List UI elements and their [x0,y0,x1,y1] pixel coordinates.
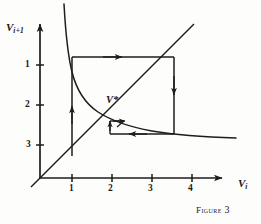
x-tick-label-3: 3 [148,184,153,194]
cobweb-plot [0,0,261,224]
x-axis-title: Vi [238,178,248,190]
x-axis-title-subscript: i [245,182,247,191]
y-tick-label-1: 3 [26,140,31,150]
figure-caption: Figure 3 [196,205,230,215]
y-tick-label-2: 2 [25,100,30,110]
figure-caption-number: 3 [224,204,229,215]
x-tick-label-2: 2 [108,184,113,194]
figure-container: Vi+1 Vi 1 2 3 1 2 3 4 V* Figure 3 [0,0,261,224]
identity-diagonal-line [31,24,194,187]
y-axis-title-subscript: i+1 [13,26,24,35]
fixed-point-label: V* [106,95,118,106]
x-tick-label-1: 1 [69,184,74,194]
x-tick-label-4: 4 [188,184,193,194]
figure-caption-word: Figure [196,205,222,215]
y-axis-title: Vi+1 [6,22,24,34]
axes-group [36,24,222,182]
y-tick-label-3: 1 [25,60,30,70]
cobweb-trajectory [72,57,174,156]
map-curve [64,4,236,138]
